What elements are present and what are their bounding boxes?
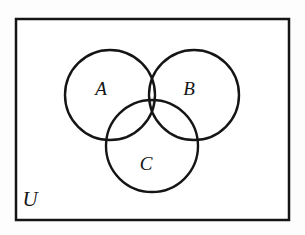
set-label-c: C [140, 153, 153, 174]
universe-rectangle [16, 19, 289, 220]
venn-diagram-figure: A B C U [0, 0, 305, 235]
universe-label: U [22, 187, 39, 211]
set-label-a: A [93, 78, 107, 99]
venn-diagram-canvas: A B C U [0, 0, 305, 235]
set-label-b: B [183, 78, 195, 99]
